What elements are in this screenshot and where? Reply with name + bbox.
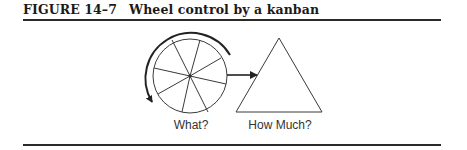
bottom-rule xyxy=(23,144,441,146)
wheel-icon xyxy=(153,39,227,113)
rotation-arrow-icon xyxy=(145,33,230,102)
wheel-kanban-diagram xyxy=(0,0,467,150)
wheel-label: What? xyxy=(174,118,209,132)
triangle-label: How Much? xyxy=(248,118,311,132)
